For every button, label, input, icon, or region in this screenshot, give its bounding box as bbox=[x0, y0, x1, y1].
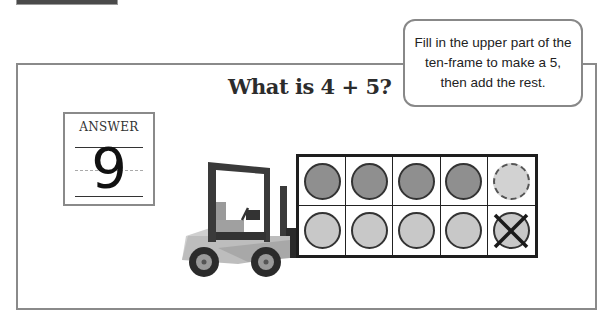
cross-out-icon bbox=[491, 211, 531, 251]
ten-frame-cell bbox=[299, 157, 346, 206]
hint-line: then add the rest. bbox=[415, 73, 572, 93]
counter-light bbox=[351, 212, 388, 249]
ten-frame-cell bbox=[346, 206, 393, 255]
counter-light bbox=[304, 212, 341, 249]
ten-frame-cell bbox=[441, 157, 488, 206]
ten-frame-cell bbox=[346, 157, 393, 206]
counter-dark bbox=[445, 163, 482, 200]
counter-light bbox=[398, 212, 435, 249]
ten-frame bbox=[296, 154, 538, 258]
ten-frame-cell bbox=[393, 206, 440, 255]
counter-dark bbox=[351, 163, 388, 200]
counter-dark bbox=[398, 163, 435, 200]
forklift-icon bbox=[178, 158, 303, 278]
answer-box: ANSWER 9 bbox=[63, 112, 155, 206]
counter-light bbox=[445, 212, 482, 249]
counter-dark bbox=[304, 163, 341, 200]
top-bar-decoration bbox=[16, 0, 118, 5]
counter-moved-dashed bbox=[493, 163, 530, 200]
ten-frame-cell bbox=[441, 206, 488, 255]
question-title: What is 4 + 5? bbox=[228, 74, 391, 99]
ten-frame-cell bbox=[488, 157, 535, 206]
ten-frame-cell bbox=[393, 157, 440, 206]
hint-line: Fill in the upper part of the bbox=[415, 33, 572, 53]
hint-line: ten-frame to make a 5, bbox=[415, 53, 572, 73]
ten-frame-cell bbox=[488, 206, 535, 255]
ten-frame-cell bbox=[299, 206, 346, 255]
answer-label: ANSWER bbox=[65, 120, 153, 134]
hint-bubble: Fill in the upper part of the ten-frame … bbox=[403, 19, 583, 107]
answer-value: 9 bbox=[65, 140, 153, 196]
